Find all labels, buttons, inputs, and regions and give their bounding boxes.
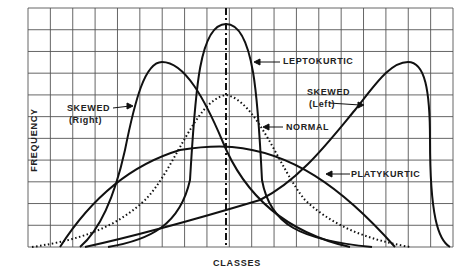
chart-canvas	[0, 0, 459, 273]
label-skewed-right: SKEWED	[67, 103, 110, 114]
chart-grid	[28, 8, 453, 247]
curve-platykurtic	[60, 146, 395, 247]
annotation-arrows	[113, 59, 364, 177]
label-skewed-right-sub: (Right)	[69, 115, 102, 126]
label-skewed-left: SKEWED	[307, 87, 350, 98]
label-normal: NORMAL	[286, 122, 329, 133]
label-platykurtic: PLATYKURTIC	[351, 169, 420, 180]
x-axis-label: CLASSES	[213, 258, 261, 268]
label-skewed-left-sub: (Left)	[309, 99, 335, 110]
y-axis-label: FREQUENCY	[29, 108, 39, 172]
label-leptokurtic: LEPTOKURTIC	[283, 56, 353, 67]
